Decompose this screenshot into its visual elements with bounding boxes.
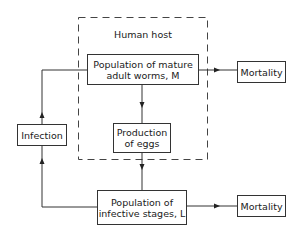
human-host-label: Human host xyxy=(88,29,198,40)
egg-production-node: Production of eggs xyxy=(113,123,171,153)
eggs-label-line1: Production xyxy=(117,127,168,138)
life-cycle-diagram: Human host Population of mature adult wo… xyxy=(0,0,300,233)
adult-worms-node: Population of mature adult worms, M xyxy=(87,54,199,85)
infective-label-line1: Population of xyxy=(99,197,186,208)
mortality-bottom-node: Mortality xyxy=(237,195,286,217)
mortality-top-node: Mortality xyxy=(237,61,286,83)
infective-label-line2: infective stages, L xyxy=(99,208,186,219)
adult-worms-label-line2: adult worms, M xyxy=(93,70,192,81)
infection-label: Infection xyxy=(21,130,62,141)
infective-stages-node: Population of infective stages, L xyxy=(97,190,187,225)
adult-worms-label-line1: Population of mature xyxy=(93,59,192,70)
infection-node: Infection xyxy=(17,124,67,146)
mortality-bottom-label: Mortality xyxy=(240,201,282,212)
eggs-label-line2: of eggs xyxy=(117,138,168,149)
mortality-top-label: Mortality xyxy=(240,67,282,78)
